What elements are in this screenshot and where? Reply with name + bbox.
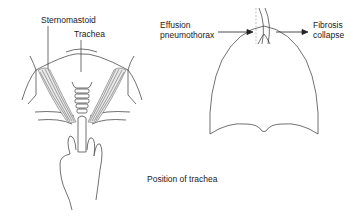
caption: Position of trachea [147,174,217,184]
sternomastoid-label: Sternomastoid [41,15,96,25]
effusion-label-line2: pneumothorax [160,30,214,40]
trachea-label: Trachea [74,29,105,39]
effusion-label-line1: Effusion [160,20,191,30]
fibrosis-label-line2: collapse [313,30,344,40]
trachea [72,82,92,113]
fibrosis-label-line1: Fibrosis [313,20,343,30]
examining-hand [60,116,102,210]
chest-outline [210,26,319,134]
